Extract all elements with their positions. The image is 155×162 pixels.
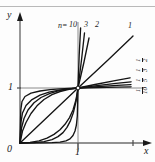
fraction-one-third: 1 3 (136, 69, 149, 73)
curve-label-exp-3: 3 (84, 21, 88, 29)
x-axis-label: x (144, 146, 148, 156)
y-tick-label-1: 1 (8, 82, 13, 92)
power-curves (20, 28, 133, 143)
intersection-point (76, 86, 80, 90)
fraction-one-tenth: 1 10 (136, 87, 149, 94)
curve-label-n-equals: n= (58, 22, 67, 30)
fraction-denominator: 10 (142, 87, 149, 94)
curve-label-exp-one-half: 1 2 (136, 59, 149, 63)
curve-label-exp-one-third: 1 3 (136, 69, 149, 73)
curve-n-one-tenth (20, 87, 131, 143)
fraction-denominator: 3 (142, 69, 149, 73)
curve-n-one-fifth (20, 85, 131, 143)
curve-n-10 (20, 28, 81, 143)
curve-label-exp-2: 2 (95, 21, 99, 29)
power-functions-figure: y x 0 1 1 n= 10 3 2 1 1 2 1 3 1 5 1 10 (0, 0, 155, 162)
curve-label-exp-10: 10 (69, 21, 77, 29)
tick-marks (17, 88, 133, 148)
x-tick-label-1: 1 (75, 147, 80, 157)
fraction-denominator: 5 (142, 79, 149, 83)
origin-label: 0 (7, 144, 12, 154)
fraction-one-fifth: 1 5 (136, 79, 149, 83)
curve-label-exp-one-tenth: 1 10 (136, 87, 149, 94)
fraction-denominator: 2 (142, 59, 149, 63)
fraction-one-half: 1 2 (136, 59, 149, 63)
curve-label-exp-1: 1 (128, 22, 132, 30)
curve-label-exp-one-fifth: 1 5 (136, 79, 149, 83)
y-axis-arrow (17, 12, 23, 21)
y-axis-label: y (7, 10, 11, 20)
